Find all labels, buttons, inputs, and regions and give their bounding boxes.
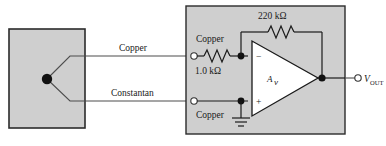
upper-input-terminal[interactable] xyxy=(191,53,197,59)
constantan-lead-label: Constantan xyxy=(111,88,154,98)
output-node xyxy=(318,74,325,81)
input-resistor-top-label: Copper xyxy=(196,34,225,44)
feedback-resistor-value-label: 220 kΩ xyxy=(258,11,286,21)
output-label-subscript: OUT xyxy=(370,79,383,86)
lower-input-terminal[interactable] xyxy=(191,98,197,104)
lower-copper-label: Copper xyxy=(196,110,225,120)
copper-lead-label: Copper xyxy=(119,43,148,53)
input-resistor-value-label: 1.0 kΩ xyxy=(195,66,221,76)
inverting-input-sign: − xyxy=(256,52,261,62)
circuit-schematic: Copper Constantan Copper 1.0 kΩ Copper xyxy=(0,0,386,146)
noninverting-input-sign: + xyxy=(256,97,261,107)
thermocouple-junction xyxy=(42,74,52,84)
output-terminal[interactable] xyxy=(355,75,361,81)
opamp-gain-symbol: A xyxy=(266,74,273,84)
thermocouple-amplifier-figure: Copper Constantan Copper 1.0 kΩ Copper xyxy=(0,0,386,146)
opamp-gain-subscript: v xyxy=(274,77,278,87)
